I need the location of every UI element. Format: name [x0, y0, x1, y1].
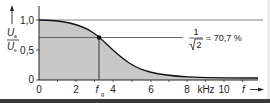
bottom-border: [0, 99, 270, 103]
x-tick-label-0: 0: [36, 84, 42, 95]
y-label-numerator-sub: a: [14, 33, 17, 39]
ref-value-label: = 70,7 %: [206, 33, 242, 43]
right-border: [267, 0, 270, 99]
ref-fraction-numerator: 1: [193, 27, 198, 37]
y-tick-label-0: 0: [28, 74, 34, 85]
x-tick-label-2: 2: [73, 84, 79, 95]
x-axis-label: f: [242, 84, 246, 95]
lowpass-frequency-response-chart: U a U e 1,0 0,5 0 0 2 f g 4 6 8 kHz 10 f…: [0, 0, 270, 103]
y-label-denominator-sub: e: [14, 47, 17, 53]
x-tick-label-8: 8: [184, 84, 190, 95]
x-tick-label-fg-sub: g: [101, 91, 104, 97]
y-axis-arrowhead-icon: [10, 5, 14, 11]
x-tick-label-6: 6: [148, 84, 154, 95]
x-tick-label-10: 10: [218, 84, 230, 95]
x-unit-label: kHz: [197, 84, 214, 95]
x-tick-label-fg: f: [96, 84, 100, 95]
y-tick-label-1-0: 1,0: [20, 15, 34, 26]
y-tick-label-0-5: 0,5: [20, 45, 34, 56]
x-axis-arrowhead-icon: [258, 88, 264, 92]
x-tick-label-4: 4: [110, 84, 116, 95]
fg-marker-dot: [97, 35, 102, 40]
ref-fraction-denominator: 2: [196, 40, 201, 50]
